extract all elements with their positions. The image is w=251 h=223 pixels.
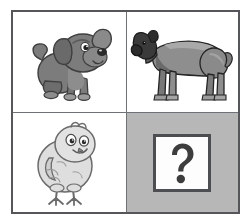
answer-question-box[interactable] (153, 134, 211, 192)
chick-icon (27, 118, 111, 208)
matrix-cell-bottom-left[interactable] (13, 112, 126, 212)
question-mark-icon (167, 142, 197, 184)
adult-dog-icon (130, 19, 234, 105)
analogy-puzzle-page (0, 0, 251, 223)
analogy-matrix-grid (11, 10, 240, 214)
matrix-cell-top-right[interactable] (126, 12, 239, 112)
puppy-icon (23, 19, 115, 105)
matrix-cell-top-left[interactable] (13, 12, 126, 112)
matrix-cell-bottom-right-answer[interactable] (126, 112, 239, 212)
